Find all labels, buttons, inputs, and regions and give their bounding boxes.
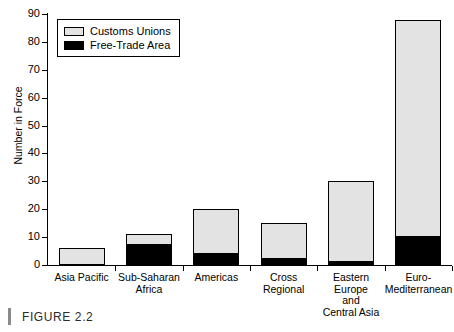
x-axis-label: Sub-Saharan Africa (115, 272, 182, 295)
y-axis-tick (42, 126, 47, 127)
legend-swatch-fta (64, 41, 84, 50)
y-axis-tick-label: 0 (4, 259, 40, 270)
bar-segment-customs-unions (193, 209, 239, 254)
figure-2-2: 0102030405060708090 Number in Force Asia… (0, 0, 454, 332)
bar-segment-free-trade-area (328, 262, 374, 265)
x-axis-label: Americas (183, 272, 250, 284)
x-axis-tick (115, 266, 116, 271)
y-axis-tick (42, 98, 47, 99)
x-axis-tick (183, 266, 184, 271)
bar-segment-customs-unions (395, 20, 441, 238)
bar-segment-customs-unions (261, 223, 307, 259)
bar-group (328, 14, 374, 265)
y-axis-tick-label: 10 (4, 231, 40, 242)
y-axis-tick (42, 209, 47, 210)
x-axis-tick (317, 266, 318, 271)
x-axis-tick (250, 266, 251, 271)
y-axis-tick-label: 90 (4, 8, 40, 19)
bar-segment-free-trade-area (261, 259, 307, 265)
bar-group (193, 14, 239, 265)
y-axis-tick (42, 70, 47, 71)
x-axis-label: Eastern Europe and Central Asia (317, 272, 384, 318)
y-axis-title: Number in Force (13, 66, 24, 186)
x-axis-label: Asia Pacific (48, 272, 115, 284)
x-axis-tick (385, 266, 386, 271)
caption-rule (8, 308, 11, 325)
x-axis-tick (452, 266, 453, 271)
y-axis-tick (42, 14, 47, 15)
legend-item: Free-Trade Area (64, 38, 171, 52)
legend-label: Customs Unions (90, 25, 171, 37)
bar-segment-free-trade-area (193, 254, 239, 265)
x-axis-label: Cross Regional (250, 272, 317, 295)
x-axis-label: Euro- Mediterranean (385, 272, 452, 295)
y-axis-tick-label: 20 (4, 203, 40, 214)
y-axis-tick (42, 181, 47, 182)
bar-segment-free-trade-area (395, 237, 441, 265)
y-axis-tick (42, 153, 47, 154)
chart-legend: Customs UnionsFree-Trade Area (57, 19, 180, 57)
legend-label: Free-Trade Area (90, 39, 170, 51)
bar-group (261, 14, 307, 265)
bar-segment-free-trade-area (126, 245, 172, 265)
y-axis-tick (42, 237, 47, 238)
bar-segment-customs-unions (59, 248, 105, 265)
y-axis-tick (42, 42, 47, 43)
y-axis-tick (42, 265, 47, 266)
bar-group (395, 14, 441, 265)
bar-segment-customs-unions (328, 181, 374, 262)
figure-caption: FIGURE 2.2 (22, 310, 93, 324)
legend-swatch-customs (64, 27, 84, 36)
bar-segment-customs-unions (126, 234, 172, 245)
legend-item: Customs Unions (64, 24, 171, 38)
y-axis-tick-label: 80 (4, 36, 40, 47)
